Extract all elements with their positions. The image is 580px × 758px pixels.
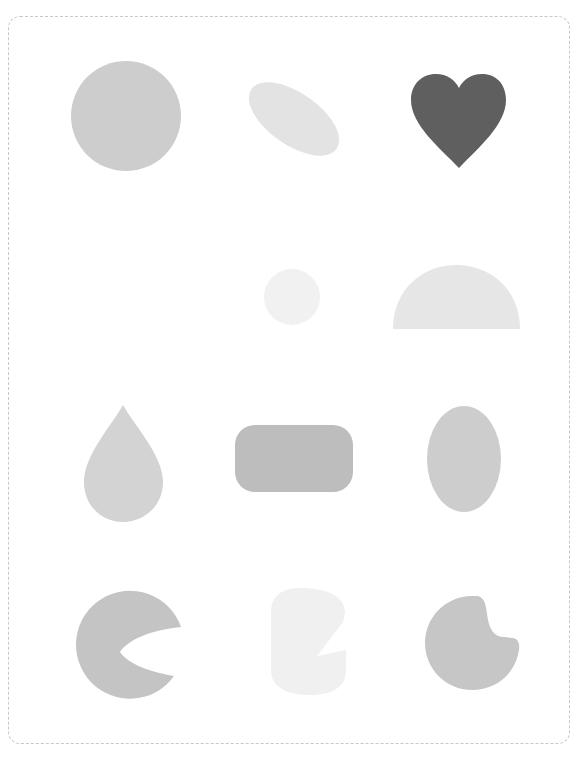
teardrop-shape [84,405,163,522]
bitten-circle-shape [425,596,519,690]
rounded-rectangle-shape [235,425,353,492]
notched-rounded-block-shape [271,588,346,695]
vertical-ellipse-shape [427,406,501,512]
small-circle-shape [264,269,320,325]
semicircle-shape [393,265,520,329]
notched-circle-shape [76,591,181,699]
heart-shape [411,74,506,168]
rotated-ellipse-shape [236,68,351,170]
circle-shape [71,61,181,171]
